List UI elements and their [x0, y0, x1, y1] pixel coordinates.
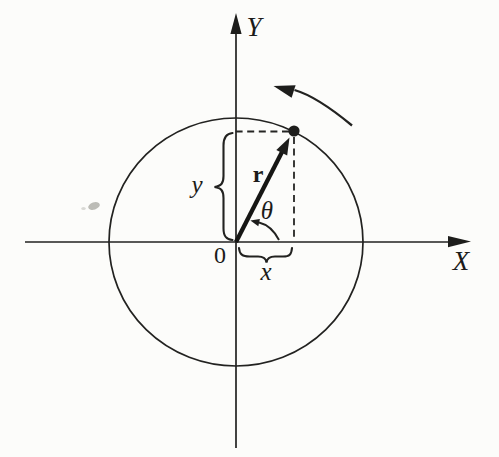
- paper-speck: [87, 201, 101, 212]
- y-component-brace: [215, 133, 233, 240]
- theta-label: θ: [261, 197, 273, 224]
- y-component-label: y: [188, 171, 203, 198]
- x-axis-label: X: [452, 246, 471, 276]
- origin-label: 0: [214, 242, 226, 268]
- theta-arc: [259, 223, 279, 241]
- radius-vector-label: r: [253, 161, 264, 187]
- particle-dot: [288, 125, 299, 136]
- y-axis-label: Y: [246, 12, 264, 42]
- figure-canvas: Y X 0 r θ y x: [0, 0, 499, 457]
- rotation-direction-arrow: [295, 90, 353, 126]
- rotation-arrowhead-icon: [274, 85, 296, 98]
- theta-arc-arrowhead-icon: [250, 219, 260, 226]
- position-vector-arrowhead-icon: [276, 138, 289, 156]
- rotating-vector-diagram: Y X 0 r θ y x: [0, 0, 499, 457]
- y-axis-arrowhead-icon: [230, 13, 241, 34]
- x-component-label: x: [259, 258, 271, 285]
- paper-speck: [81, 207, 85, 210]
